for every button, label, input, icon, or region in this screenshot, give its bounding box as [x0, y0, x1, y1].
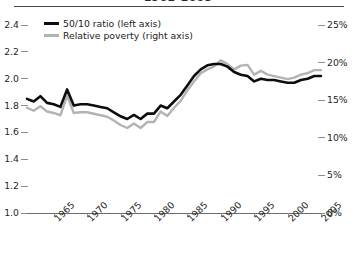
- left-axis-tick-mark: [21, 51, 28, 52]
- x-axis-line: [27, 213, 321, 214]
- left-axis-tick-mark: [21, 105, 28, 106]
- legend-swatch-ratio-icon: [44, 22, 59, 26]
- x-axis-tick-label: 1975: [119, 199, 144, 224]
- right-axis-tick: 10%: [327, 132, 355, 143]
- chart-title: 1961–2005: [0, 0, 356, 4]
- left-axis-tick-mark: [21, 78, 28, 79]
- x-axis-tick-label: 1980: [152, 199, 177, 224]
- x-axis-tick-label: 1965: [52, 199, 77, 224]
- left-axis-tick-mark: [21, 132, 28, 133]
- x-axis-tick-label: 1990: [219, 199, 244, 224]
- right-axis-tick-mark: [318, 62, 325, 63]
- legend-item-poverty: Relative poverty (right axis): [44, 30, 193, 41]
- left-axis-tick: 1.2: [0, 180, 19, 191]
- x-axis-tick-label: 1970: [85, 199, 110, 224]
- left-axis-tick: 2.2: [0, 46, 19, 57]
- right-axis-tick: 15%: [327, 94, 355, 105]
- right-axis-tick-mark: [318, 137, 325, 138]
- left-axis-tick: 1.6: [0, 126, 19, 137]
- x-axis-tick-label: 2000: [286, 199, 311, 224]
- left-axis-tick: 1.0: [0, 207, 19, 218]
- legend-item-ratio: 50/10 ratio (left axis): [44, 18, 193, 29]
- legend-label-ratio: 50/10 ratio (left axis): [63, 18, 161, 29]
- x-axis-tick-label: 1985: [185, 199, 210, 224]
- left-axis-tick: 2.0: [0, 73, 19, 84]
- left-axis-tick-mark: [21, 25, 28, 26]
- series-line-ratio: [27, 64, 321, 119]
- series-line-poverty: [27, 60, 321, 128]
- left-axis-tick: 1.8: [0, 100, 19, 111]
- left-axis-tick-mark: [21, 159, 28, 160]
- right-axis-tick: 20%: [327, 57, 355, 68]
- left-axis-tick: 2.4: [0, 19, 19, 30]
- right-axis-tick-mark: [318, 25, 325, 26]
- left-axis-tick-mark: [21, 186, 28, 187]
- right-axis-tick: 5%: [327, 169, 355, 180]
- right-axis-tick: 25%: [327, 19, 355, 30]
- right-axis-tick-mark: [318, 100, 325, 101]
- x-axis-tick-label: 1995: [252, 199, 277, 224]
- right-axis-tick-mark: [318, 175, 325, 176]
- title-divider: [14, 6, 344, 7]
- chart-legend: 50/10 ratio (left axis) Relative poverty…: [44, 18, 193, 42]
- chart-figure: 1961–2005 50/10 ratio (left axis) Relati…: [0, 0, 356, 261]
- legend-label-poverty: Relative poverty (right axis): [63, 30, 193, 41]
- left-axis-tick: 1.4: [0, 153, 19, 164]
- legend-swatch-poverty-icon: [44, 34, 59, 37]
